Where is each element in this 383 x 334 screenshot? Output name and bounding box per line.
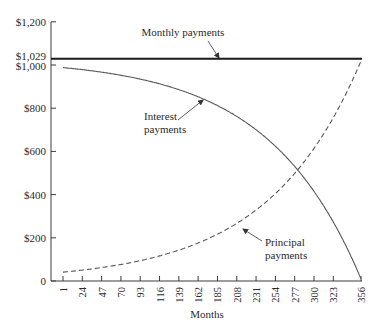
x-tick-label: 356 — [356, 287, 367, 303]
y-tick-label: $1,029 — [16, 50, 47, 62]
x-tick-label: 323 — [328, 287, 339, 303]
monthly-arrow-icon — [208, 41, 219, 58]
interest-arrow-icon — [178, 100, 203, 120]
interest-annotation-line1: Interest — [144, 110, 177, 122]
x-tick-label: 116 — [155, 287, 166, 302]
x-tick-label: 70 — [116, 287, 127, 298]
x-tick-label: 24 — [77, 286, 88, 297]
y-tick-label: $600 — [24, 145, 47, 157]
annotations: Monthly payments Interest payments Princ… — [142, 26, 308, 261]
x-tick-label: 185 — [212, 287, 223, 303]
x-tick-label: 254 — [270, 286, 281, 303]
y-axis: 0$200$400$600$800$1,000$1,029$1,200 — [16, 16, 56, 287]
interest-payments-line — [63, 68, 361, 279]
y-tick-label: 0 — [41, 275, 47, 287]
series-group — [51, 59, 362, 279]
y-tick-label: $1,000 — [16, 60, 47, 72]
y-tick-label: $1,200 — [16, 16, 47, 28]
principal-payments-line — [63, 61, 361, 272]
x-tick-label: 208 — [232, 287, 243, 303]
x-tick-label: 277 — [290, 287, 301, 303]
y-tick-label: $200 — [24, 232, 47, 244]
x-axis: 1244770931161391621852082312542773003233… — [51, 276, 367, 303]
chart-svg: 0$200$400$600$800$1,000$1,029$1,200 1244… — [0, 0, 383, 334]
principal-arrow-icon — [243, 229, 262, 241]
x-tick-label: 139 — [174, 287, 185, 303]
x-tick-label: 162 — [193, 287, 204, 303]
principal-annotation-line1: Principal — [265, 236, 305, 248]
x-axis-title: Months — [190, 308, 224, 320]
amortization-chart: 0$200$400$600$800$1,000$1,029$1,200 1244… — [0, 0, 383, 334]
interest-annotation-line2: payments — [144, 123, 186, 135]
monthly-payments-annotation: Monthly payments — [142, 26, 225, 38]
principal-annotation-line2: payments — [265, 249, 307, 261]
y-tick-label: $400 — [24, 189, 47, 201]
y-tick-label: $800 — [24, 102, 47, 114]
x-tick-label: 93 — [135, 287, 146, 298]
x-tick-label: 231 — [251, 287, 262, 303]
x-tick-label: 47 — [97, 287, 108, 298]
x-tick-label: 300 — [309, 287, 320, 303]
x-tick-label: 1 — [58, 287, 69, 292]
